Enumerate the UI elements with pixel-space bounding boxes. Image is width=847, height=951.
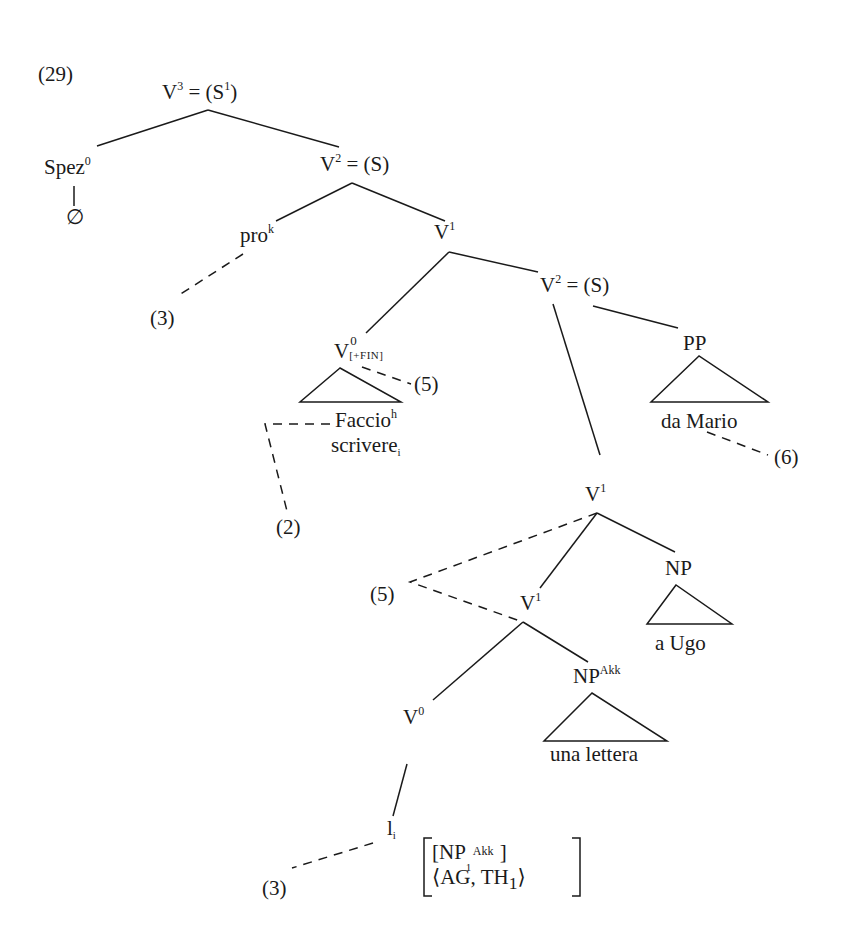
example-number: (29) [38,64,73,85]
node-pro-k: prok [240,225,274,246]
node-sup: 1 [600,481,606,495]
feature-close: ⟩ [517,865,525,889]
ref-pro: (3) [150,308,175,329]
node-a-ugo: a Ugo [655,633,706,654]
node-base: scrivere [331,433,397,457]
node-sup: h [391,407,397,421]
node-sup: k [268,222,274,236]
node-empty-set: ∅ [66,207,84,228]
ref-v1: (5) [370,584,395,605]
node-v0-fin: V0[+FIN] [334,341,411,362]
feature-open: ⟨AG, TH [432,865,509,889]
node-rest: = (S [183,80,224,104]
node-v2-s-mid: V2 = (S) [540,275,609,296]
node-sup: 0 [85,154,91,168]
node-scrivere: scriverei [331,435,401,456]
node-sup: 1 [449,219,455,233]
node-rest: = (S) [561,273,609,297]
feature-open: [NP [432,840,466,864]
node-np: NP [665,558,692,579]
node-base: V [320,152,335,176]
feature-subcat: [NP1Akk] [432,839,526,866]
node-base: pro [240,223,268,247]
node-base: V [585,482,600,506]
node-v1-top: V1 [434,222,455,243]
node-base: Spez [44,155,85,179]
ref-v0-fin: (5) [414,374,439,395]
node-rest: = (S) [341,152,389,176]
node-base: V [162,80,177,104]
ref-pp: (6) [774,447,799,468]
node-sup: 0 [418,704,424,718]
node-base: V [334,339,349,363]
feature-matrix: [NP1Akk] ⟨AG, TH1⟩ [422,836,516,896]
node-base: V [520,591,535,615]
node-close: ) [230,80,237,104]
node-np-akk: NPAkk [573,666,621,687]
node-v3-s1: V3 = (S1) [162,82,237,103]
feature-theta-grid: ⟨AG, TH1⟩ [432,864,526,897]
ref-li: (3) [262,878,287,899]
node-v1-mid: V1 [585,484,606,505]
node-base: V [540,273,555,297]
feature-sup: Akk [473,845,494,857]
node-da-mario: da Mario [661,411,737,432]
node-base: Faccio [335,408,391,432]
node-l-i: li [387,818,396,839]
node-v2-s-top: V2 = (S) [320,154,389,175]
node-sup: Akk [600,663,621,677]
node-v1-low: V1 [520,593,541,614]
node-v0-low: V0 [403,707,424,728]
node-base: V [434,220,449,244]
node-spez0: Spez0 [44,157,91,178]
node-faccio: Faccioh [335,410,397,431]
node-base: NP [573,664,600,688]
node-sup: 0 [350,334,357,347]
feature-close: ] [500,840,507,864]
node-base: V [403,705,418,729]
node-sub: i [397,446,400,458]
node-sup: 1 [535,590,541,604]
node-sub: i [393,829,396,841]
ref-faccio: (2) [276,517,301,538]
node-una-lettera: una lettera [550,744,638,765]
node-sub: [+FIN] [349,350,383,361]
node-pp: PP [683,333,706,354]
tree-edges [0,0,847,951]
